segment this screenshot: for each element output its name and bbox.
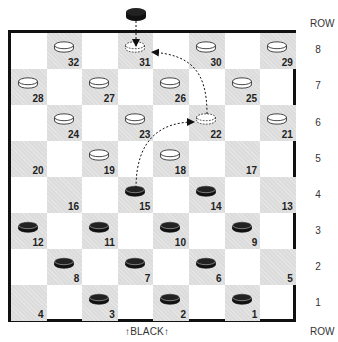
square-number: 14 [210, 201, 221, 212]
black-checker-icon [159, 293, 181, 305]
white-checker-icon [17, 77, 39, 89]
square-5: 5 [260, 249, 296, 285]
row-footer-label: ROW [310, 326, 334, 337]
square-number: 12 [32, 237, 43, 248]
square-22: 22 [189, 105, 225, 141]
row-number-5: 5 [306, 153, 330, 164]
square-number: 18 [175, 165, 186, 176]
square-number: 29 [282, 57, 293, 68]
square-number: 28 [32, 93, 43, 104]
square-number: 20 [32, 165, 43, 176]
entering-black-piece-icon [126, 8, 146, 21]
white-checker-icon [266, 41, 288, 53]
square-number: 21 [282, 129, 293, 140]
white-checker-icon [124, 113, 146, 125]
row-number-7: 7 [306, 80, 330, 91]
black-checker-icon [195, 257, 217, 269]
square-29: 29 [260, 33, 296, 69]
square-number: 27 [104, 93, 115, 104]
square-number: 3 [109, 309, 115, 320]
white-checker-icon [53, 41, 75, 53]
black-checker-icon [124, 185, 146, 197]
square-6: 6 [189, 249, 225, 285]
square-number: 24 [68, 129, 79, 140]
square-number: 30 [210, 57, 221, 68]
square-30: 30 [189, 33, 225, 69]
square-31: 31 [118, 33, 154, 69]
square-number: 13 [282, 201, 293, 212]
ghost-checker-icon [124, 41, 146, 53]
square-number: 2 [180, 309, 186, 320]
white-checker-icon [88, 77, 110, 89]
square-27: 27 [82, 69, 118, 105]
square-15: 15 [118, 177, 154, 213]
square-number: 8 [74, 273, 80, 284]
white-checker-icon [231, 77, 253, 89]
square-number: 11 [104, 237, 115, 248]
square-13: 13 [260, 177, 296, 213]
square-number: 22 [210, 129, 221, 140]
row-number-8: 8 [306, 44, 330, 55]
row-number-3: 3 [306, 225, 330, 236]
square-number: 6 [216, 273, 222, 284]
square-number: 1 [252, 309, 258, 320]
square-number: 26 [175, 93, 186, 104]
white-checker-icon [266, 113, 288, 125]
square-12: 12 [11, 213, 47, 249]
square-11: 11 [82, 213, 118, 249]
square-10: 10 [153, 213, 189, 249]
square-2: 2 [153, 285, 189, 321]
square-number: 25 [246, 93, 257, 104]
square-26: 26 [153, 69, 189, 105]
square-1: 1 [225, 285, 261, 321]
square-number: 10 [175, 237, 186, 248]
white-checker-icon [159, 77, 181, 89]
row-number-2: 2 [306, 261, 330, 272]
row-number-6: 6 [306, 117, 330, 128]
square-number: 5 [287, 273, 293, 284]
square-16: 16 [47, 177, 83, 213]
row-header-label: ROW [310, 18, 334, 29]
square-21: 21 [260, 105, 296, 141]
row-number-1: 1 [306, 297, 330, 308]
square-8: 8 [47, 249, 83, 285]
white-checker-icon [159, 149, 181, 161]
white-checker-icon [53, 113, 75, 125]
black-checker-icon [17, 221, 39, 233]
square-number: 19 [104, 165, 115, 176]
black-checker-icon [231, 221, 253, 233]
black-checker-icon [231, 293, 253, 305]
square-number: 16 [68, 201, 79, 212]
square-4: 4 [11, 285, 47, 321]
white-checker-icon [195, 41, 217, 53]
square-20: 20 [11, 141, 47, 177]
square-number: 7 [145, 273, 151, 284]
square-23: 23 [118, 105, 154, 141]
ghost-checker-icon [195, 113, 217, 125]
square-number: 9 [252, 237, 258, 248]
square-3: 3 [82, 285, 118, 321]
square-14: 14 [189, 177, 225, 213]
square-18: 18 [153, 141, 189, 177]
square-28: 28 [11, 69, 47, 105]
square-24: 24 [47, 105, 83, 141]
white-checker-icon [88, 149, 110, 161]
square-number: 4 [38, 309, 44, 320]
black-checker-icon [195, 185, 217, 197]
black-checker-icon [88, 221, 110, 233]
black-checker-icon [159, 221, 181, 233]
black-checker-icon [88, 293, 110, 305]
square-number: 17 [246, 165, 257, 176]
square-32: 32 [47, 33, 83, 69]
square-number: 31 [139, 57, 150, 68]
checkerboard: 3231302928272625242322212019181716151413… [8, 30, 296, 322]
square-number: 32 [68, 57, 79, 68]
square-25: 25 [225, 69, 261, 105]
black-checker-icon [53, 257, 75, 269]
square-7: 7 [118, 249, 154, 285]
square-number: 15 [139, 201, 150, 212]
row-number-4: 4 [306, 189, 330, 200]
black-side-label: ↑BLACK↑ [125, 326, 169, 337]
black-checker-icon [124, 257, 146, 269]
square-17: 17 [225, 141, 261, 177]
